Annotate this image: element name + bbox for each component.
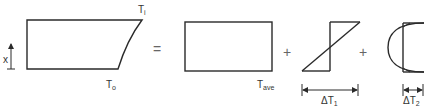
linear-temperature-component (302, 22, 360, 71)
x-axis-arrow (7, 44, 15, 69)
label-to: To (106, 79, 116, 91)
plus-sign-1: + (283, 44, 291, 60)
temperature-decomposition-diagram: x Ti To = Tave + ΔT1 + ΔT2 (0, 0, 429, 110)
label-delta-t2: ΔT2 (403, 95, 420, 107)
x-axis-label: x (3, 54, 8, 65)
label-delta-t1: ΔT1 (321, 95, 338, 107)
label-ti: Ti (138, 4, 146, 16)
plus-sign-2: + (359, 44, 367, 60)
total-temperature-profile (27, 20, 142, 69)
label-tave: Tave (257, 79, 275, 91)
nonlinear-temperature-component (388, 23, 424, 72)
uniform-temperature-component (185, 22, 272, 71)
equals-sign: = (153, 41, 161, 57)
